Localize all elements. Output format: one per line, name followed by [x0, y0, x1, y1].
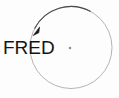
direction-arrow-arc [35, 6, 90, 28]
direction-arrowhead-icon [33, 27, 39, 36]
diagram-canvas: FRED [0, 0, 119, 98]
center-point-dot [69, 47, 72, 50]
rotation-diagram: FRED [0, 0, 119, 98]
object-label: FRED [3, 37, 55, 58]
